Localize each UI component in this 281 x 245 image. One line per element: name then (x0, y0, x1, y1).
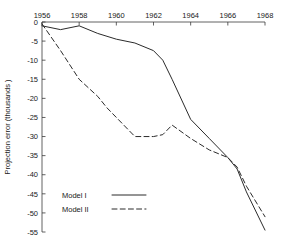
y-tick-label: -5 (31, 37, 38, 46)
y-axis-title: Projection error (thousands ) (3, 79, 12, 175)
y-tick-label: -20 (27, 94, 38, 103)
series-line-model-ii (42, 24, 265, 217)
x-tick-label: 1958 (71, 11, 88, 20)
legend-label-model-ii: Model II (62, 205, 89, 214)
y-tick-label: -50 (27, 209, 38, 218)
x-tick-label: 1960 (108, 11, 125, 20)
x-tick-label: 1962 (145, 11, 162, 20)
x-tick-label: 1966 (219, 11, 236, 20)
chart-legend: Model IModel II (62, 191, 146, 214)
y-tick-label: -15 (27, 75, 38, 84)
y-tick-label: 0 (34, 18, 38, 27)
chart-plot-area: 19561958196019621964196619680-5-10-15-20… (0, 0, 281, 245)
x-tick-label: 1968 (257, 11, 274, 20)
projection-error-chart: 19561958196019621964196619680-5-10-15-20… (0, 0, 281, 245)
y-tick-label: -40 (27, 170, 38, 179)
tick-labels: 19561958196019621964196619680-5-10-15-20… (27, 11, 273, 237)
axes (42, 22, 265, 232)
legend-label-model-i: Model I (62, 191, 87, 200)
y-tick-label: -35 (27, 151, 38, 160)
y-tick-label: -25 (27, 113, 38, 122)
y-tick-label: -30 (27, 132, 38, 141)
y-tick-label: -45 (27, 190, 38, 199)
y-tick-label: -10 (27, 56, 38, 65)
x-tick-label: 1964 (182, 11, 199, 20)
y-axis-title-text: Projection error (thousands ) (3, 79, 12, 175)
y-tick-label: -55 (27, 228, 38, 237)
